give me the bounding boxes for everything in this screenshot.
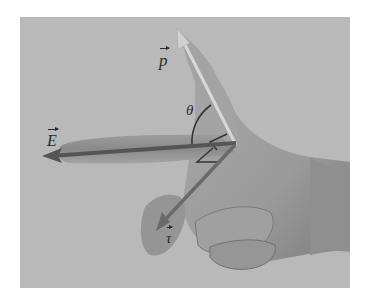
tau-label: τ <box>166 231 171 246</box>
knuckle-2 <box>210 240 275 269</box>
e-label: E <box>47 133 57 149</box>
hand-photo: p E τ θ <box>20 17 350 288</box>
diagram-svg <box>20 17 350 288</box>
theta-label: θ <box>186 103 193 118</box>
p-label: p <box>159 52 168 69</box>
